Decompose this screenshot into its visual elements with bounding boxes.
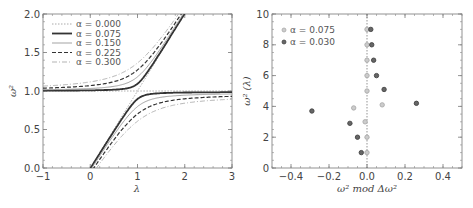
- data-point: [371, 58, 375, 62]
- y-tick-label: 1.0: [24, 86, 40, 97]
- x-tick-label: −0.4: [279, 171, 303, 182]
- x-tick-label: 2: [182, 171, 188, 182]
- x-axis-label: λ: [133, 183, 140, 194]
- data-point: [352, 106, 356, 110]
- data-point: [355, 135, 359, 139]
- y-tick-label: 0: [263, 163, 269, 174]
- y-axis-label: ω² (λ): [241, 76, 252, 106]
- legend-label: α = 0.300: [76, 57, 121, 67]
- data-point: [310, 109, 314, 113]
- figure: −101230.00.51.01.52.0α = 0.000α = 0.075α…: [0, 0, 473, 208]
- x-tick-label: −0.2: [317, 171, 341, 182]
- curve-alpha-3-upper: [43, 0, 232, 88]
- data-point: [365, 43, 369, 47]
- y-tick-label: 10: [256, 9, 269, 20]
- curve-alpha-1-lower: [90, 92, 232, 169]
- data-point: [363, 120, 367, 124]
- data-point: [359, 150, 363, 154]
- y-tick-label: 2.0: [24, 9, 40, 20]
- curve-alpha-2-upper: [43, 0, 232, 90]
- legend-marker: [282, 28, 286, 32]
- legend-label: α = 0.075: [76, 29, 121, 39]
- x-tick-label: 0: [87, 171, 93, 182]
- x-axis-label: ω² mod Δω²: [337, 183, 397, 194]
- data-point: [365, 89, 369, 93]
- data-point: [374, 73, 378, 77]
- legend-label: α = 0.075: [290, 25, 335, 35]
- x-tick-label: 0.0: [359, 171, 375, 182]
- curve-alpha-2-lower: [90, 94, 232, 171]
- legend: α = 0.000α = 0.075α = 0.150α = 0.225α = …: [52, 19, 121, 67]
- x-tick-label: 3: [229, 171, 235, 182]
- legend-label: α = 0.225: [76, 48, 121, 58]
- y-tick-label: 2: [263, 132, 269, 143]
- y-tick-label: 6: [263, 70, 269, 81]
- data-point: [370, 43, 374, 47]
- data-point: [365, 58, 369, 62]
- data-point: [380, 103, 384, 107]
- data-point: [365, 150, 369, 154]
- y-tick-label: 0.5: [24, 124, 40, 135]
- dispersion-chart: −101230.00.51.01.52.0α = 0.000α = 0.075α…: [7, 0, 235, 194]
- legend-label: α = 0.000: [76, 19, 121, 29]
- y-tick-label: 4: [263, 101, 269, 112]
- x-tick-label: 0.4: [435, 171, 451, 182]
- data-point: [365, 73, 369, 77]
- y-tick-label: 1.5: [24, 47, 40, 58]
- data-point: [382, 87, 386, 91]
- legend-marker: [282, 40, 286, 44]
- data-point: [365, 135, 369, 139]
- dispersion-curves: [43, 0, 232, 175]
- data-point: [348, 121, 352, 125]
- x-tick-label: 0.2: [397, 171, 413, 182]
- y-axis-label: ω²: [7, 85, 18, 97]
- y-tick-label: 8: [263, 39, 269, 50]
- legend: α = 0.075α = 0.030: [282, 25, 335, 47]
- scatter-chart: −0.4−0.20.00.20.40246810α = 0.075α = 0.0…: [241, 9, 462, 195]
- data-point: [369, 27, 373, 31]
- legend-label: α = 0.150: [76, 38, 121, 48]
- y-tick-label: 0.0: [24, 163, 40, 174]
- legend-label: α = 0.030: [290, 37, 335, 47]
- x-tick-label: 1: [134, 171, 140, 182]
- data-point: [414, 101, 418, 105]
